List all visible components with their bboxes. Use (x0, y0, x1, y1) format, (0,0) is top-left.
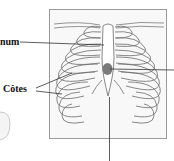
ribs-label: Côtes (3, 84, 27, 94)
rib-cage-diagram: num Côtes (0, 0, 174, 161)
partial-figure-edge (0, 112, 10, 140)
sternum-label: num (0, 37, 19, 47)
rib-cage-illustration (0, 0, 174, 161)
